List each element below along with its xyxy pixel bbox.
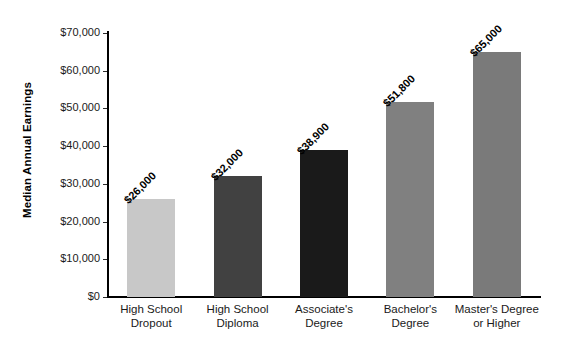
x-axis-category-label: High School Diploma — [190, 302, 284, 330]
plot-area: $26,000$32,000$38,900$51,800$65,000 — [108, 33, 540, 297]
bar — [300, 150, 348, 297]
y-axis-tick-label: $70,000 — [34, 26, 100, 38]
y-axis-tick-label: $0 — [34, 290, 100, 302]
x-axis-category-label: Master's Degree or Higher — [450, 302, 544, 330]
bar — [473, 52, 521, 297]
y-axis-tick-label: $30,000 — [34, 177, 100, 189]
y-axis-tick-label: $50,000 — [34, 101, 100, 113]
y-axis-tick-label: $20,000 — [34, 215, 100, 227]
y-axis-tick-label: $40,000 — [34, 139, 100, 151]
y-axis-tick-label: $10,000 — [34, 252, 100, 264]
bar — [386, 102, 434, 297]
bar — [214, 176, 262, 297]
x-axis-category-label: High School Dropout — [104, 302, 198, 330]
bar-chart: Median Annual Earnings $0$10,000$20,000$… — [0, 0, 561, 342]
y-axis-tick-labels: $0$10,000$20,000$30,000$40,000$50,000$60… — [32, 0, 100, 342]
bar — [127, 199, 175, 297]
y-axis-tick-label: $60,000 — [34, 64, 100, 76]
x-axis-category-label: Bachelor's Degree — [363, 302, 457, 330]
x-axis-category-label: Associate's Degree — [277, 302, 371, 330]
